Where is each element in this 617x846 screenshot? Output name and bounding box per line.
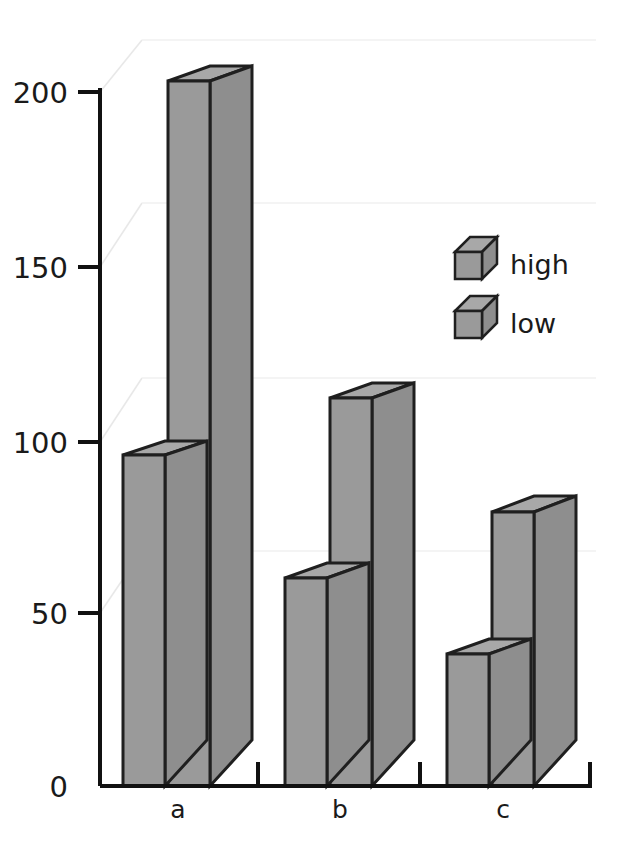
legend-cube-high-front bbox=[455, 252, 482, 279]
gridline-100 bbox=[100, 378, 142, 442]
chart-legend: high low bbox=[455, 237, 569, 339]
bar-b-high-side bbox=[372, 383, 414, 786]
y-tick-label-100: 100 bbox=[13, 426, 68, 460]
legend-item-low[interactable]: low bbox=[455, 296, 556, 339]
legend-cube-low-front bbox=[455, 311, 482, 338]
legend-label-high: high bbox=[510, 249, 569, 280]
bar-a-low[interactable] bbox=[123, 441, 207, 786]
bar-c-low-front bbox=[447, 654, 489, 786]
bar-b-low-front bbox=[285, 578, 327, 786]
bar-group-a bbox=[123, 66, 252, 786]
bar-group-c bbox=[447, 496, 576, 786]
y-tick-label-150: 150 bbox=[13, 251, 68, 285]
bar-c-high-side bbox=[534, 496, 576, 786]
bar-a-low-side bbox=[165, 441, 207, 786]
legend-item-high[interactable]: high bbox=[455, 237, 569, 280]
x-category-labels: a b c bbox=[170, 795, 510, 824]
x-tick-label-c: c bbox=[496, 795, 510, 824]
legend-cube-high-icon bbox=[455, 237, 497, 279]
y-tick-label-200: 200 bbox=[13, 76, 68, 110]
bar-b-low[interactable] bbox=[285, 563, 369, 786]
y-tick-label-50: 50 bbox=[31, 597, 68, 631]
bar-chart-3d: 200 150 100 50 0 a b c high bbox=[0, 0, 617, 846]
gridline-150 bbox=[100, 203, 142, 267]
gridline-200 bbox=[100, 40, 142, 92]
y-tick-labels: 200 150 100 50 0 bbox=[13, 76, 68, 804]
y-tick-label-0: 0 bbox=[50, 770, 68, 804]
x-tick-label-a: a bbox=[170, 795, 185, 824]
legend-label-low: low bbox=[510, 308, 556, 339]
bar-a-low-front bbox=[123, 455, 165, 786]
bar-a-high-side bbox=[210, 66, 252, 786]
bar-group-b bbox=[285, 383, 414, 786]
legend-cube-low-icon bbox=[455, 296, 497, 338]
x-tick-label-b: b bbox=[332, 795, 348, 824]
chart-container: 200 150 100 50 0 a b c high bbox=[0, 0, 617, 846]
